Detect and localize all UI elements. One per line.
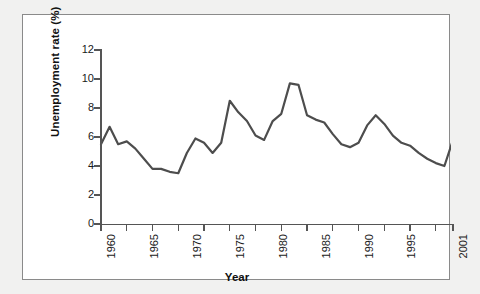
x-axis-line xyxy=(100,224,454,226)
y-axis-label: Unemployment rate (%) xyxy=(49,6,61,137)
y-tick xyxy=(94,223,100,225)
y-tick-label-text: 2 xyxy=(64,189,94,200)
y-tick-label-text: 6 xyxy=(64,131,94,142)
y-tick xyxy=(94,136,100,138)
x-tick xyxy=(332,225,333,231)
x-tick xyxy=(229,225,230,231)
y-tick-label-text: 12 xyxy=(64,44,94,55)
x-tick xyxy=(255,225,256,231)
x-tick xyxy=(152,225,153,231)
x-axis-label: Year xyxy=(23,271,451,283)
x-tick xyxy=(435,225,436,231)
y-tick-label-text: 0 xyxy=(64,218,94,229)
y-tick-label: 2 xyxy=(57,189,94,201)
y-tick-label-text: 10 xyxy=(64,73,94,84)
chart-page: 024681012 196019651970197519801985199019… xyxy=(0,0,480,294)
unemployment-rate-line xyxy=(101,83,451,173)
x-tick xyxy=(178,225,179,231)
x-tick-label: 1995 xyxy=(406,234,417,258)
y-tick xyxy=(94,49,100,51)
x-tick xyxy=(358,225,359,231)
x-tick xyxy=(384,225,385,231)
x-tick-label: 1990 xyxy=(364,234,375,258)
y-tick-label: 12 xyxy=(57,44,94,56)
y-tick-label-text: 4 xyxy=(64,160,94,171)
x-tick-label: 1975 xyxy=(235,234,246,258)
x-tick xyxy=(409,225,410,231)
x-tick xyxy=(100,225,101,231)
x-tick-label: 1980 xyxy=(278,234,289,258)
x-tick-label: 2001 xyxy=(458,234,469,258)
x-tick-label: 1965 xyxy=(149,234,160,258)
y-tick xyxy=(94,194,100,196)
y-axis-line xyxy=(100,49,102,225)
y-tick-label: 0 xyxy=(57,218,94,230)
y-tick-label: 6 xyxy=(57,131,94,143)
x-tick-label: 1970 xyxy=(192,234,203,258)
x-tick xyxy=(126,225,127,231)
y-tick xyxy=(94,78,100,80)
y-tick-label-text: 8 xyxy=(64,102,94,113)
x-tick xyxy=(452,225,453,231)
y-tick xyxy=(94,107,100,109)
y-tick xyxy=(94,165,100,167)
x-tick-label: 1960 xyxy=(106,234,117,258)
y-tick-label: 10 xyxy=(57,73,94,85)
figure-frame: 024681012 196019651970197519801985199019… xyxy=(22,14,450,280)
x-tick xyxy=(281,225,282,231)
x-tick xyxy=(306,225,307,231)
x-tick xyxy=(203,225,204,231)
y-tick-label: 4 xyxy=(57,160,94,172)
y-tick-label: 8 xyxy=(57,102,94,114)
x-tick-label: 1985 xyxy=(321,234,332,258)
